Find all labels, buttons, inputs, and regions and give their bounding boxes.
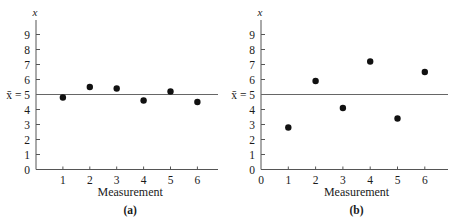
x-tick-label: 6 [422, 174, 428, 186]
mean-label: x̄ = 5 [231, 89, 255, 101]
data-point [285, 124, 291, 130]
y-axis-label: x [257, 6, 263, 18]
y-tick-label: 1 [24, 149, 30, 161]
y-tick-label: 6 [249, 74, 255, 86]
y-tick-label: 7 [24, 59, 30, 71]
y-tick-label: 9 [24, 29, 30, 41]
y-tick-label: 2 [24, 134, 30, 146]
x-tick-label: 5 [395, 174, 401, 186]
y-tick-label: 0 [249, 164, 255, 176]
chart-panel-a: x012346789x̄ = 5123456Measurement(a) [0, 0, 226, 220]
x-tick-label: 1 [60, 174, 66, 186]
x-tick-label: 1 [285, 174, 291, 186]
data-point [340, 105, 346, 111]
y-tick-label: 3 [24, 119, 30, 131]
mean-label: x̄ = 5 [6, 89, 30, 101]
x-tick-label: 2 [87, 174, 93, 186]
scatter-chart-a: x012346789x̄ = 5123456Measurement(a) [0, 0, 226, 220]
x-tick-label: 2 [313, 174, 319, 186]
data-point [422, 69, 428, 75]
panel-label: (b) [350, 204, 364, 217]
scatter-chart-b: x012346789x̄ = 50123456Measurement(b) [226, 0, 453, 220]
y-tick-label: 1 [249, 149, 255, 161]
data-point [367, 58, 373, 64]
data-point [312, 78, 318, 84]
y-tick-label: 4 [24, 104, 30, 116]
y-tick-label: 0 [24, 164, 30, 176]
x-axis-label: Measurement [97, 185, 163, 199]
y-tick-label: 3 [249, 119, 255, 131]
x-tick-label: 5 [168, 174, 174, 186]
data-point [140, 97, 146, 103]
y-tick-label: 8 [249, 44, 255, 56]
data-point [87, 84, 93, 90]
y-tick-label: 6 [24, 74, 30, 86]
data-point [394, 115, 400, 121]
y-tick-label: 9 [249, 29, 255, 41]
y-tick-label: 2 [249, 134, 255, 146]
chart-panel-b: x012346789x̄ = 50123456Measurement(b) [226, 0, 453, 220]
y-tick-label: 4 [249, 104, 255, 116]
y-axis-label: x [32, 6, 38, 18]
x-axis-label: Measurement [324, 185, 390, 199]
x-tick-label: 3 [114, 174, 120, 186]
y-tick-label: 8 [24, 44, 30, 56]
data-point [60, 94, 66, 100]
data-point [167, 88, 173, 94]
x-tick-label: 4 [141, 174, 147, 186]
x-tick-label: 4 [367, 174, 373, 186]
x-tick-label: 6 [195, 174, 201, 186]
x-tick-label: 0 [258, 174, 264, 186]
data-point [194, 99, 200, 105]
y-tick-label: 7 [249, 59, 255, 71]
panel-label: (a) [123, 204, 137, 217]
x-tick-label: 3 [340, 174, 346, 186]
data-point [114, 85, 120, 91]
